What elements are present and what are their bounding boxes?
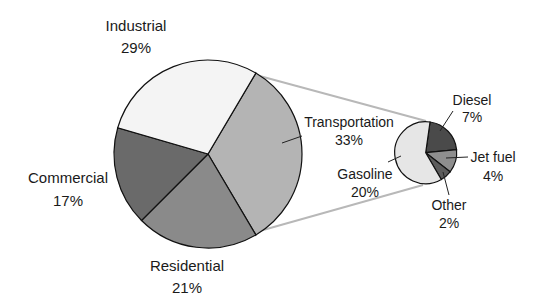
label-commercial-name: Commercial — [28, 169, 108, 186]
label-diesel-value: 7% — [462, 109, 482, 125]
label-residential-name: Residential — [150, 257, 224, 274]
label-jet-fuel: Jet fuel 4% — [470, 149, 515, 184]
label-industrial: Industrial 29% — [106, 17, 167, 56]
label-jet-fuel-name: Jet fuel — [470, 149, 515, 165]
label-residential: Residential 21% — [150, 257, 224, 296]
label-transportation-value: 33% — [335, 132, 363, 148]
label-commercial: Commercial 17% — [28, 169, 108, 209]
secondary-pie — [395, 122, 457, 184]
label-other-value: 2% — [439, 215, 459, 231]
label-gasoline-value: 20% — [351, 184, 379, 200]
label-residential-value: 21% — [172, 279, 202, 296]
leader-diesel — [440, 111, 453, 131]
label-other-name: Other — [431, 197, 466, 213]
label-other: Other 2% — [431, 197, 466, 231]
slice-diesel — [426, 122, 457, 153]
label-transportation-name: Transportation — [304, 114, 394, 130]
label-industrial-value: 29% — [121, 39, 151, 56]
label-gasoline-name: Gasoline — [337, 166, 392, 182]
label-diesel-name: Diesel — [453, 92, 492, 108]
main-pie — [114, 60, 302, 248]
label-jet-fuel-value: 4% — [483, 168, 503, 184]
pie-of-pie-chart: Industrial 29% Commercial 17% Residentia… — [0, 0, 536, 306]
label-commercial-value: 17% — [53, 192, 83, 209]
label-transportation: Transportation 33% — [304, 114, 394, 148]
label-diesel: Diesel 7% — [453, 92, 492, 125]
label-industrial-name: Industrial — [106, 17, 167, 34]
